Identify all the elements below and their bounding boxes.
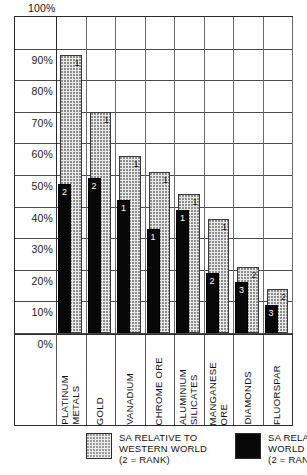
column-separator — [263, 17, 264, 333]
category-label: DIAMONDS — [243, 366, 254, 425]
category-label-cell: CHROME ORE — [145, 335, 175, 425]
rank-label-world: 2 — [92, 182, 97, 191]
rank-label-world: 2 — [210, 277, 215, 286]
rank-label-western-world: 1 — [104, 116, 109, 125]
legend-text-line: SA RELATIVE TO — [268, 432, 307, 443]
category-label: VANADIUM — [125, 368, 136, 425]
column-separator — [145, 17, 146, 333]
legend-swatch — [235, 433, 261, 459]
column-separator — [233, 17, 234, 333]
bar-group: 23 — [263, 17, 293, 333]
y-tick-label: 70% — [17, 117, 53, 129]
category-label: FLUORSPAR — [272, 360, 283, 425]
bar-group: 12 — [204, 17, 234, 333]
legend-text-line: WESTERN WORLD — [119, 443, 207, 454]
category-label: ALUMINIUM SILICATES — [178, 364, 199, 425]
y-tick-label: 10% — [17, 306, 53, 318]
rank-label-western-world: 1 — [192, 198, 197, 207]
y-tick-label: 30% — [17, 243, 53, 255]
rank-label-world: 1 — [180, 214, 185, 223]
chart-legend: SA RELATIVE TOWESTERN WORLD(2 = RANK)SA … — [14, 432, 293, 472]
y-tick-label: 20% — [17, 275, 53, 287]
column-separator — [86, 17, 87, 333]
legend-swatch — [86, 433, 112, 459]
rank-label-western-world: 2 — [251, 271, 256, 280]
category-label: GOLD — [95, 392, 106, 425]
plot-frame: 90%80%70%60%50%40%30%20%10%0% 1212111111… — [14, 16, 293, 334]
bar-world — [58, 184, 71, 333]
bar-world — [176, 210, 189, 333]
legend-text-line: (2 = RANK) — [268, 454, 307, 465]
rank-label-world: 3 — [239, 286, 244, 295]
rank-label-world: 3 — [269, 309, 274, 318]
legend-text-line: (2 = RANK) — [119, 454, 207, 465]
column-separator — [115, 17, 116, 333]
legend-item: SA RELATIVE TOWORLD(2 = RANK) — [235, 432, 307, 465]
bar-group: 23 — [233, 17, 263, 333]
category-label: MANGANESE ORE — [208, 357, 229, 425]
bar-group: 12 — [56, 17, 86, 333]
category-label-cell: DIAMONDS — [233, 335, 263, 425]
legend-text-line: SA RELATIVE TO — [119, 432, 207, 443]
y-tick-label: 80% — [17, 85, 53, 97]
bar-group: 11 — [145, 17, 175, 333]
y-tick-label: 40% — [17, 212, 53, 224]
chart-root: 100% 90%80%70%60%50%40%30%20%10%0% 12121… — [0, 0, 307, 475]
bar-group: 11 — [115, 17, 145, 333]
category-label-cell: ALUMINIUM SILICATES — [174, 335, 204, 425]
y-tick-label: 90% — [17, 54, 53, 66]
bar-world — [88, 178, 101, 333]
rank-label-western-world: 1 — [74, 59, 79, 68]
bar-world — [147, 229, 160, 333]
category-label-cell: PLATINUM METALS — [56, 335, 86, 425]
legend-text: SA RELATIVE TOWORLD(2 = RANK) — [268, 432, 307, 465]
legend-item: SA RELATIVE TOWESTERN WORLD(2 = RANK) — [86, 432, 207, 465]
legend-text-line: WORLD — [268, 443, 307, 454]
bar-world — [117, 200, 130, 333]
column-separator — [174, 17, 175, 333]
column-separator — [292, 17, 293, 333]
y-tick-label: 50% — [17, 180, 53, 192]
rank-label-western-world: 2 — [281, 293, 286, 302]
rank-label-western-world: 1 — [222, 223, 227, 232]
rank-label-world: 1 — [121, 204, 126, 213]
category-label: CHROME ORE — [154, 352, 165, 425]
y-tick-label: 60% — [17, 148, 53, 160]
bar-group: 11 — [174, 17, 204, 333]
bar-group: 12 — [86, 17, 116, 333]
rank-label-western-world: 1 — [163, 176, 168, 185]
column-separator — [204, 17, 205, 333]
category-label-cell: FLUORSPAR — [263, 335, 293, 425]
rank-label-world: 1 — [151, 233, 156, 242]
rank-label-world: 2 — [62, 188, 67, 197]
category-label-cell: GOLD — [86, 335, 116, 425]
category-label-band: PLATINUM METALSGOLDVANADIUMCHROME OREALU… — [14, 334, 293, 426]
category-label: PLATINUM METALS — [60, 370, 81, 425]
legend-text: SA RELATIVE TOWESTERN WORLD(2 = RANK) — [119, 432, 207, 465]
category-label-cell: VANADIUM — [115, 335, 145, 425]
rank-label-western-world: 1 — [133, 160, 138, 169]
y-axis-top-label: 100% — [28, 2, 56, 14]
category-label-cell: MANGANESE ORE — [204, 335, 234, 425]
